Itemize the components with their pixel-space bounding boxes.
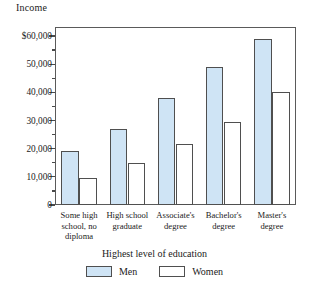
y-tick-label: 40,000 (26, 87, 52, 97)
bar-women-1 (128, 163, 146, 205)
y-tick-minor (52, 134, 56, 135)
legend-label: Men (119, 266, 137, 277)
y-tick-minor (52, 190, 56, 191)
y-tick-label: 50,000 (26, 59, 52, 69)
y-axis-ticks: $60,00050,00040,00030,00020,00010,0000 (0, 0, 52, 289)
x-category-label: Bachelor's degree (200, 210, 248, 231)
y-tick-minor (52, 78, 56, 79)
bar-chart: Income $60,00050,00040,00030,00020,00010… (0, 0, 309, 289)
bar-men-0 (61, 151, 79, 205)
bar-men-4 (254, 39, 272, 205)
legend-item-women[interactable]: Women (159, 266, 223, 277)
y-tick-minor (52, 162, 56, 163)
chart-legend: MenWomen (0, 266, 309, 277)
bar-men-1 (110, 129, 128, 205)
y-tick-minor (52, 106, 56, 107)
bar-men-3 (206, 67, 224, 205)
x-category-label: Master's degree (248, 210, 296, 231)
y-tick-label: 20,000 (26, 144, 52, 154)
legend-item-men[interactable]: Men (86, 266, 137, 277)
legend-label: Women (192, 266, 223, 277)
bar-women-2 (176, 144, 194, 205)
x-axis-title: Highest level of education (0, 248, 309, 259)
y-tick-minor (52, 49, 56, 50)
x-category-label: Some high school, no diploma (55, 210, 103, 242)
bar-women-4 (272, 92, 290, 205)
men-swatch (86, 266, 112, 277)
y-tick-label: 30,000 (26, 116, 52, 126)
bar-men-2 (158, 98, 176, 205)
bar-women-0 (79, 178, 97, 205)
y-tick-label: $60,000 (22, 31, 52, 41)
y-tick-label: 0 (47, 200, 52, 210)
y-tick-label: 10,000 (26, 172, 52, 182)
women-swatch (159, 266, 185, 277)
x-category-label: High school graduate (103, 210, 151, 231)
x-category-label: Associate's degree (151, 210, 199, 231)
bar-women-3 (224, 122, 242, 205)
